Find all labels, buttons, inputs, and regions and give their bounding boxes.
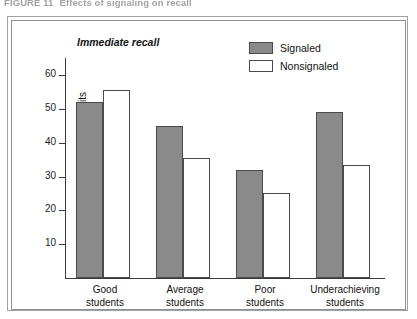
x-axis-category-line: students xyxy=(295,297,395,310)
bar-signaled-2 xyxy=(236,170,263,278)
figure-caption-number: FIGURE 11 xyxy=(4,0,53,8)
bar-signaled-0 xyxy=(76,102,103,278)
figure-caption-text: Effects of signaling on recall xyxy=(59,0,191,8)
legend-item-signaled: Signaled xyxy=(249,40,338,55)
y-axis-tick-label: 10 xyxy=(45,237,56,248)
x-axis-category-label: Underachievingstudents xyxy=(295,284,395,309)
plot-area: 102030405060 Mean number of recalled ide… xyxy=(65,58,385,278)
x-axis-line xyxy=(65,278,385,279)
legend-label-signaled: Signaled xyxy=(280,42,321,54)
y-axis-tick-label: 40 xyxy=(45,136,56,147)
y-axis-tick: 10 xyxy=(59,244,65,245)
y-axis-tick-label: 50 xyxy=(45,102,56,113)
bar-nonsignaled-2 xyxy=(263,193,290,278)
y-axis-tick: 50 xyxy=(59,109,65,110)
figure-caption: FIGURE 11Effects of signaling on recall xyxy=(4,0,334,10)
x-axis-category-line: Underachieving xyxy=(295,284,395,297)
y-axis-tick: 30 xyxy=(59,177,65,178)
bar-nonsignaled-0 xyxy=(103,90,130,278)
bar-nonsignaled-3 xyxy=(343,165,370,278)
y-axis-tick: 60 xyxy=(59,75,65,76)
y-axis-tick: 20 xyxy=(59,210,65,211)
y-axis-tick-label: 60 xyxy=(45,68,56,79)
y-axis-tick-label: 30 xyxy=(45,170,56,181)
bar-signaled-1 xyxy=(156,126,183,278)
bar-nonsignaled-1 xyxy=(183,158,210,278)
figure-root: FIGURE 11Effects of signaling on recall … xyxy=(0,0,417,319)
bar-signaled-3 xyxy=(316,112,343,278)
y-axis-line xyxy=(65,58,66,279)
legend-swatch-signaled xyxy=(249,42,273,54)
y-axis-tick-label: 20 xyxy=(45,203,56,214)
panel-title: Immediate recall xyxy=(77,36,159,48)
y-axis-tick: 40 xyxy=(59,143,65,144)
